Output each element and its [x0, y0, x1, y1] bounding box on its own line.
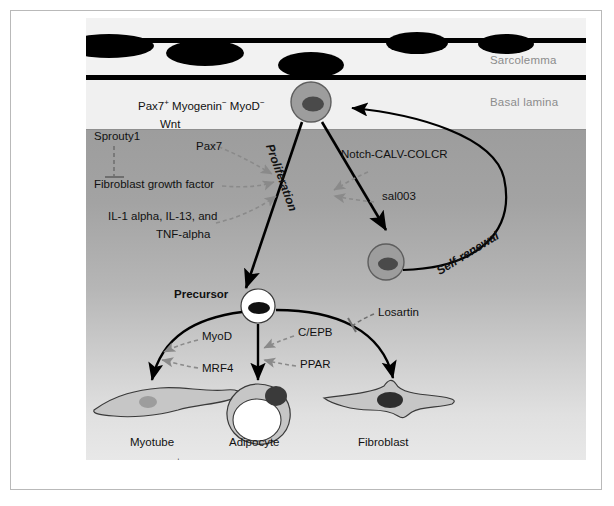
mrf4-dashed-arrow [162, 360, 198, 368]
myotube-marker-pax7-sign: − [118, 456, 123, 460]
factor-cytokines-line1: IL-1 alpha, IL-13, and [108, 210, 217, 222]
factor-fibroblast-growth-factor: Fibroblast growth factor [94, 178, 214, 190]
factor-ppar: PPAR [300, 358, 330, 370]
adipocyte-label: Adipocyte [229, 436, 280, 448]
factor-myod: MyoD [202, 330, 232, 342]
precursor-cell [241, 289, 275, 323]
myotube-markers: Pax7− Myogenin+ MyoD− [92, 456, 219, 460]
notch-dashed-arrow [334, 172, 368, 190]
myotube-label: Myotube [130, 436, 174, 448]
myotube-marker-myogenin-sign: + [176, 456, 181, 460]
factor-sal003: sal003 [382, 190, 416, 202]
fibroblast-label: Fibroblast [358, 436, 409, 448]
self-renewing-cell [368, 244, 404, 280]
marker-pax7: Pax7 [138, 100, 164, 112]
factor-mrf4: MRF4 [202, 362, 233, 374]
marker-myod-sign: − [260, 98, 265, 107]
losartin-inhibition-line [352, 314, 374, 326]
marker-myod: MyoD [230, 100, 260, 112]
factor-notch-calv-colcr: Notch-CALV-COLCR [341, 148, 448, 160]
factor-cytokines-line2: TNF-alpha [156, 228, 210, 240]
arrow-to-fibroblast [276, 310, 393, 378]
marker-pax7-sign: + [164, 98, 169, 107]
fibroblast-cell [324, 380, 454, 417]
factor-wnt: Wnt [160, 118, 180, 130]
satellite-cell-markers: Pax7+ Myogenin− MyoD− [138, 98, 265, 112]
factor-sprouty1: Sprouty1 [94, 130, 140, 142]
marker-myogenin: Myogenin [172, 100, 222, 112]
diagram-panel: Sarcolemma Basal lamina [86, 18, 586, 460]
figure-root: Sarcolemma Basal lamina [0, 0, 614, 506]
marker-myogenin-sign: − [222, 98, 227, 107]
self-renewal-arrow [322, 122, 386, 230]
fgf-dashed-arrow [222, 182, 274, 187]
myotube-marker-myod: MyoD [184, 458, 214, 460]
myotube-marker-myogenin: Myogenin [126, 458, 176, 460]
ppar-dashed-arrow [264, 360, 296, 366]
myotube-marker-myod-sign: − [214, 456, 219, 460]
cebp-dashed-arrow [264, 336, 294, 348]
myotube-marker-pax7: Pax7 [92, 458, 118, 460]
precursor-label: Precursor [174, 288, 228, 300]
factor-losartin: Losartin [378, 306, 419, 318]
factor-pax7: Pax7 [196, 140, 222, 152]
cytokines-dashed-arrow [216, 196, 276, 223]
factor-cebp: C/EPB [298, 326, 333, 338]
myotube-cell [94, 388, 240, 417]
satellite-cell-niche [291, 82, 331, 122]
